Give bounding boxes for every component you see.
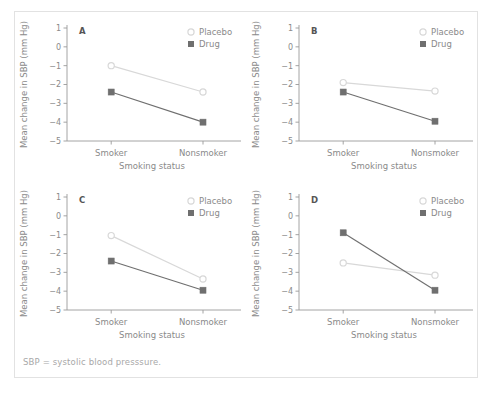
series-line-drug (111, 261, 203, 290)
chart-panel-b: 10−1−2−3−4−5SmokerNonsmokerSmoking statu… (247, 12, 479, 181)
y-tick-label: −4 (281, 118, 293, 127)
y-tick-label: −4 (281, 287, 293, 296)
data-point-drug (108, 258, 114, 264)
x-category-label: Smoker (95, 317, 128, 327)
legend-marker-drug-icon (420, 210, 426, 216)
panel-grid: 10−1−2−3−4−5SmokerNonsmokerSmoking statu… (15, 12, 479, 350)
y-tick-label: 1 (56, 193, 61, 202)
series-line-drug (111, 92, 203, 122)
data-point-placebo (200, 276, 206, 282)
figure-top-caption (15, 3, 498, 12)
y-tick-label: −2 (281, 80, 293, 89)
legend-marker-placebo-icon (188, 29, 194, 35)
y-tick-label: −5 (281, 137, 293, 146)
data-point-placebo (340, 260, 346, 266)
panel-d-plot: 10−1−2−3−4−5SmokerNonsmokerSmoking statu… (247, 181, 479, 350)
y-tick-label: −1 (281, 62, 293, 71)
y-tick-label: −4 (49, 287, 61, 296)
y-tick-label: 1 (288, 193, 293, 202)
data-point-drug (432, 118, 438, 124)
y-tick-label: −5 (49, 306, 61, 315)
panel-letter: C (79, 195, 85, 205)
x-category-label: Smoker (95, 148, 128, 158)
data-point-drug (340, 89, 346, 95)
legend-marker-drug-icon (420, 41, 426, 47)
chart-panel-d: 10−1−2−3−4−5SmokerNonsmokerSmoking statu… (247, 181, 479, 350)
data-point-drug (200, 287, 206, 293)
y-tick-label: −3 (49, 268, 61, 277)
chart-panel-a: 10−1−2−3−4−5SmokerNonsmokerSmoking statu… (15, 12, 247, 181)
legend-marker-placebo-icon (188, 198, 194, 204)
data-point-drug (108, 89, 114, 95)
series-line-placebo (111, 66, 203, 92)
panel-letter: D (311, 195, 318, 205)
x-axis-title: Smoking status (351, 330, 417, 340)
panel-b-plot: 10−1−2−3−4−5SmokerNonsmokerSmoking statu… (247, 12, 479, 181)
legend-label-placebo: Placebo (431, 196, 464, 206)
x-category-label: Nonsmoker (179, 148, 228, 158)
y-tick-label: −1 (49, 62, 61, 71)
data-point-drug (200, 119, 206, 125)
legend-marker-placebo-icon (420, 29, 426, 35)
panel-letter: A (79, 26, 86, 36)
legend-label-drug: Drug (431, 39, 452, 49)
y-axis-title: Mean change in SBP (mm Hg) (19, 190, 29, 317)
y-tick-label: −3 (281, 99, 293, 108)
data-point-placebo (108, 63, 114, 69)
series-line-drug (343, 92, 435, 121)
y-tick-label: 0 (56, 212, 61, 221)
data-point-placebo (432, 272, 438, 278)
y-tick-label: −1 (49, 231, 61, 240)
y-tick-label: −2 (49, 80, 61, 89)
data-point-placebo (200, 89, 206, 95)
y-tick-label: 0 (288, 212, 293, 221)
legend-label-drug: Drug (199, 208, 220, 218)
y-tick-label: −5 (49, 137, 61, 146)
x-category-label: Nonsmoker (179, 317, 228, 327)
legend-marker-drug-icon (188, 41, 194, 47)
x-axis-title: Smoking status (119, 161, 185, 171)
y-axis-title: Mean change in SBP (mm Hg) (19, 21, 29, 148)
y-tick-label: −3 (281, 268, 293, 277)
series-line-placebo (343, 263, 435, 275)
data-point-placebo (108, 233, 114, 239)
legend-label-drug: Drug (431, 208, 452, 218)
series-line-placebo (111, 236, 203, 279)
figure-footnote: SBP = systolic blood presssure. (23, 357, 161, 367)
series-line-drug (343, 233, 435, 290)
y-tick-label: 0 (288, 43, 293, 52)
x-category-label: Nonsmoker (411, 148, 460, 158)
y-tick-label: −2 (49, 249, 61, 258)
y-tick-label: −1 (281, 231, 293, 240)
data-point-drug (432, 287, 438, 293)
legend-label-placebo: Placebo (431, 27, 464, 37)
data-point-placebo (340, 80, 346, 86)
legend-marker-placebo-icon (420, 198, 426, 204)
y-tick-label: −5 (281, 306, 293, 315)
y-tick-label: 1 (56, 24, 61, 33)
figure-frame: 10−1−2−3−4−5SmokerNonsmokerSmoking statu… (14, 11, 478, 378)
panel-letter: B (311, 26, 317, 36)
x-category-label: Smoker (327, 148, 360, 158)
y-tick-label: −3 (49, 99, 61, 108)
y-axis-title: Mean change in SBP (mm Hg) (251, 190, 261, 317)
x-axis-title: Smoking status (119, 330, 185, 340)
legend-marker-drug-icon (188, 210, 194, 216)
x-category-label: Smoker (327, 317, 360, 327)
y-axis-title: Mean change in SBP (mm Hg) (251, 21, 261, 148)
series-line-placebo (343, 83, 435, 91)
panel-c-plot: 10−1−2−3−4−5SmokerNonsmokerSmoking statu… (15, 181, 247, 350)
data-point-drug (340, 230, 346, 236)
data-point-placebo (432, 88, 438, 94)
x-category-label: Nonsmoker (411, 317, 460, 327)
y-tick-label: −2 (281, 249, 293, 258)
x-axis-title: Smoking status (351, 161, 417, 171)
chart-panel-c: 10−1−2−3−4−5SmokerNonsmokerSmoking statu… (15, 181, 247, 350)
y-tick-label: 1 (288, 24, 293, 33)
legend-label-placebo: Placebo (199, 27, 232, 37)
panel-a-plot: 10−1−2−3−4−5SmokerNonsmokerSmoking statu… (15, 12, 247, 181)
y-tick-label: −4 (49, 118, 61, 127)
legend-label-placebo: Placebo (199, 196, 232, 206)
legend-label-drug: Drug (199, 39, 220, 49)
y-tick-label: 0 (56, 43, 61, 52)
